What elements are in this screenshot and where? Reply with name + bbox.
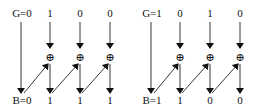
gray-bit: 0 <box>107 7 113 19</box>
gray-bit: 1 <box>47 7 53 19</box>
gray-to-binary-diagram: G=0B=01⊕10⊕10⊕1G=1B=10⊕11⊕00⊕0 <box>0 0 259 109</box>
gray-bit: 0 <box>77 7 83 19</box>
binary-bit: 0 <box>207 94 213 106</box>
feedback-arrow-icon <box>154 64 178 93</box>
xor-circle-plus-icon: ⊕ <box>235 51 244 63</box>
feedback-arrow-icon <box>52 64 78 93</box>
diagram-example-1: G=0B=01⊕10⊕10⊕1 <box>12 7 114 106</box>
xor-circle-plus-icon: ⊕ <box>75 51 84 63</box>
binary-bit: 1 <box>47 94 53 106</box>
diagram-example-2: G=1B=10⊕11⊕00⊕0 <box>142 7 244 106</box>
binary-bit: 1 <box>77 94 83 106</box>
binary-label: B=1 <box>142 94 161 106</box>
feedback-arrow-icon <box>82 64 108 93</box>
feedback-arrow-icon <box>212 64 238 93</box>
gray-bit: 1 <box>207 7 213 19</box>
gray-label: G=1 <box>142 7 162 19</box>
xor-circle-plus-icon: ⊕ <box>45 51 54 63</box>
xor-circle-plus-icon: ⊕ <box>175 51 184 63</box>
gray-bit: 0 <box>177 7 183 19</box>
gray-label: G=0 <box>12 7 32 19</box>
xor-circle-plus-icon: ⊕ <box>105 51 114 63</box>
gray-bit: 0 <box>237 7 243 19</box>
binary-bit: 0 <box>237 94 243 106</box>
binary-label: B=0 <box>12 94 32 106</box>
xor-circle-plus-icon: ⊕ <box>205 51 214 63</box>
binary-bit: 1 <box>107 94 113 106</box>
binary-bit: 1 <box>177 94 183 106</box>
feedback-arrow-icon <box>182 64 208 93</box>
feedback-arrow-icon <box>24 64 48 93</box>
